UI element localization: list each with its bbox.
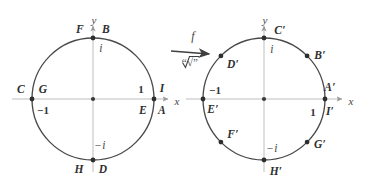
left-origin-point [91, 97, 95, 101]
right-value-negi: −i [266, 143, 277, 155]
right-point-Gp [262, 158, 267, 163]
left-y-axis-label: y [91, 15, 96, 26]
right-label-Hp: G′ [314, 139, 326, 151]
right-value-i: i [270, 44, 273, 56]
figure-canvas: y x F B i C G −1 1 I E A −i H D f “√” y … [0, 0, 368, 186]
right-origin-point [262, 97, 266, 101]
right-point-Fp [219, 140, 224, 145]
left-value-i: i [99, 43, 102, 55]
right-label-Bp: B′ [314, 50, 325, 62]
left-label-F: F [76, 24, 84, 36]
left-label-G: G [39, 84, 48, 96]
map-operation-label: “√” [182, 57, 198, 68]
left-value-negi: −i [94, 140, 105, 152]
left-label-A: A [158, 105, 166, 117]
left-label-H: H [74, 164, 83, 176]
left-axes-group [12, 26, 168, 172]
diagram-svg [0, 0, 368, 186]
map-arrow-icon [171, 51, 209, 54]
left-label-D: D [99, 164, 108, 176]
left-value-1: 1 [138, 84, 144, 95]
right-point-Dp [219, 54, 224, 59]
left-x-axis-label: x [174, 96, 179, 107]
left-label-I: I [160, 83, 165, 95]
right-label-Gp: H′ [270, 166, 283, 178]
left-label-C: C [17, 84, 25, 96]
right-point-Ap-Ip [323, 97, 328, 102]
right-label-Ap: A′ [324, 82, 335, 94]
right-y-axis-label: y [262, 15, 267, 26]
map-function-label: f [191, 30, 195, 42]
right-label-Cp: C′ [274, 25, 285, 37]
left-point-D-H [91, 158, 96, 163]
right-x-axis-label: x [348, 96, 353, 107]
left-label-E: E [139, 105, 147, 117]
right-point-Bp [305, 54, 310, 59]
left-label-B: B [102, 24, 110, 36]
left-point-A-I-E [152, 97, 157, 102]
right-point-Ep [201, 97, 206, 102]
right-label-Ep: E′ [207, 104, 218, 116]
right-point-Cp [262, 36, 267, 41]
right-label-Fp: F′ [227, 129, 238, 141]
left-point-B-F [91, 36, 96, 41]
right-label-Ip: I′ [326, 106, 334, 118]
right-value-1: 1 [310, 107, 316, 118]
right-point-Hp [305, 140, 310, 145]
right-label-Dp: D′ [227, 59, 239, 71]
left-value-neg1: −1 [37, 105, 49, 116]
left-point-C-G [30, 97, 35, 102]
right-value-neg1: −1 [209, 85, 221, 96]
